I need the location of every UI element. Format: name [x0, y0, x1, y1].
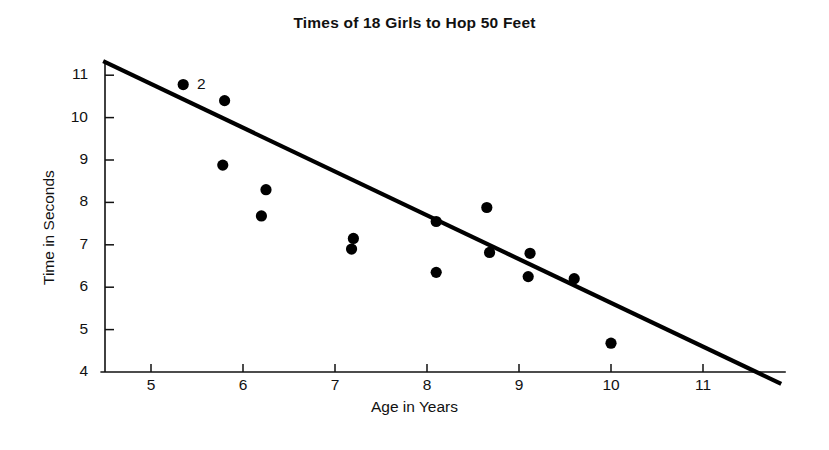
- data-point: [481, 202, 492, 213]
- x-tick-label: 9: [504, 376, 534, 394]
- data-point: [524, 248, 535, 259]
- x-tick-label: 5: [136, 376, 166, 394]
- y-tick-label: 11: [54, 65, 88, 83]
- data-point: [346, 243, 357, 254]
- x-tick-label: 7: [320, 376, 350, 394]
- data-point: [605, 338, 616, 349]
- data-point: [348, 233, 359, 244]
- y-tick-label: 5: [54, 320, 88, 338]
- y-tick-label: 6: [54, 277, 88, 295]
- x-tick-label: 8: [412, 376, 442, 394]
- y-tick-label: 10: [54, 108, 88, 126]
- x-axis-label: Age in Years: [0, 398, 829, 416]
- data-point: [260, 184, 271, 195]
- data-point: [523, 271, 534, 282]
- y-tick-label: 9: [54, 150, 88, 168]
- trend-line: [103, 61, 781, 384]
- x-tick-label: 11: [688, 376, 718, 394]
- data-point: [431, 267, 442, 278]
- data-point: [484, 247, 495, 258]
- data-points-group: [178, 79, 617, 349]
- point-count-annotation: 2: [197, 75, 206, 93]
- trend-line-segment: [103, 61, 781, 384]
- data-point: [219, 95, 230, 106]
- data-point: [569, 273, 580, 284]
- y-tick-label: 8: [54, 192, 88, 210]
- data-point: [431, 216, 442, 227]
- data-point: [256, 210, 267, 221]
- data-point: [217, 159, 228, 170]
- y-axis-label: Time in Seconds: [40, 170, 58, 285]
- y-tick-label: 4: [54, 362, 88, 380]
- data-point: [178, 79, 189, 90]
- chart-figure: Times of 18 Girls to Hop 50 Feet 5678910…: [0, 0, 829, 450]
- y-tick-label: 7: [54, 235, 88, 253]
- x-tick-label: 10: [596, 376, 626, 394]
- plot-area: 567891011 4567891011 2: [0, 0, 829, 450]
- x-tick-label: 6: [228, 376, 258, 394]
